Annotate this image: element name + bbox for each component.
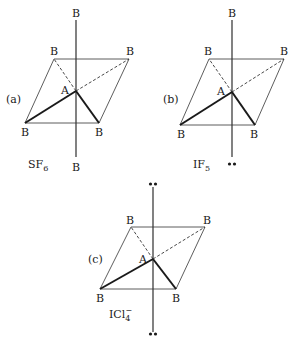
lone-pair-icon — [149, 332, 152, 335]
ligand-label: B — [228, 7, 236, 20]
back-bond — [76, 59, 129, 91]
front-bond — [76, 91, 99, 123]
lone-pair-icon — [154, 332, 157, 335]
panel-c: B B B B A (c) ICl4− — [88, 182, 211, 335]
center-atom-label: A — [60, 84, 70, 97]
ligand-label: B — [126, 214, 134, 227]
center-atom-label: A — [216, 85, 226, 98]
ligand-label: B — [203, 214, 211, 227]
molecule-formula: ICl4− — [109, 306, 132, 323]
panel-label: (a) — [6, 93, 21, 106]
ligand-label: B — [126, 45, 134, 58]
ligand-label: B — [95, 126, 103, 139]
center-atom-label: A — [138, 253, 148, 266]
ligand-label: B — [172, 292, 180, 305]
front-bond — [153, 259, 176, 289]
molecule-formula: SF6 — [28, 158, 48, 173]
panel-label: (c) — [88, 253, 103, 266]
ligand-label: B — [72, 7, 80, 20]
lone-pair-icon — [154, 182, 157, 185]
ligand-label: B — [280, 45, 288, 58]
vsepr-diagram: B B B B B B A (a) SF6 B B B B B A (b) IF… — [0, 0, 291, 340]
ligand-label: B — [204, 45, 212, 58]
ligand-label: B — [21, 126, 29, 139]
ligand-label: B — [250, 128, 258, 141]
front-bond — [232, 92, 255, 125]
panel-label: (b) — [163, 93, 179, 106]
lone-pair-icon — [228, 162, 231, 165]
lone-pair-icon — [149, 182, 152, 185]
panel-a: B B B B B B A (a) SF6 — [6, 7, 134, 174]
ligand-label: B — [96, 292, 104, 305]
ligand-label: B — [177, 128, 185, 141]
panel-b: B B B B B A (b) IF5 — [163, 7, 288, 173]
ligand-label: B — [72, 161, 80, 174]
lone-pair-icon — [233, 162, 236, 165]
molecule-formula: IF5 — [193, 158, 210, 173]
back-bond — [232, 59, 284, 92]
ligand-label: B — [50, 45, 58, 58]
